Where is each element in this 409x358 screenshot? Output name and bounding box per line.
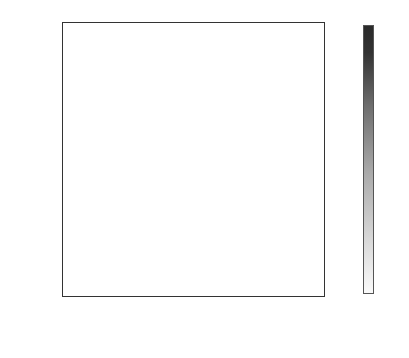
colorbar [363,25,374,294]
confusion-matrix-plot [62,22,325,297]
